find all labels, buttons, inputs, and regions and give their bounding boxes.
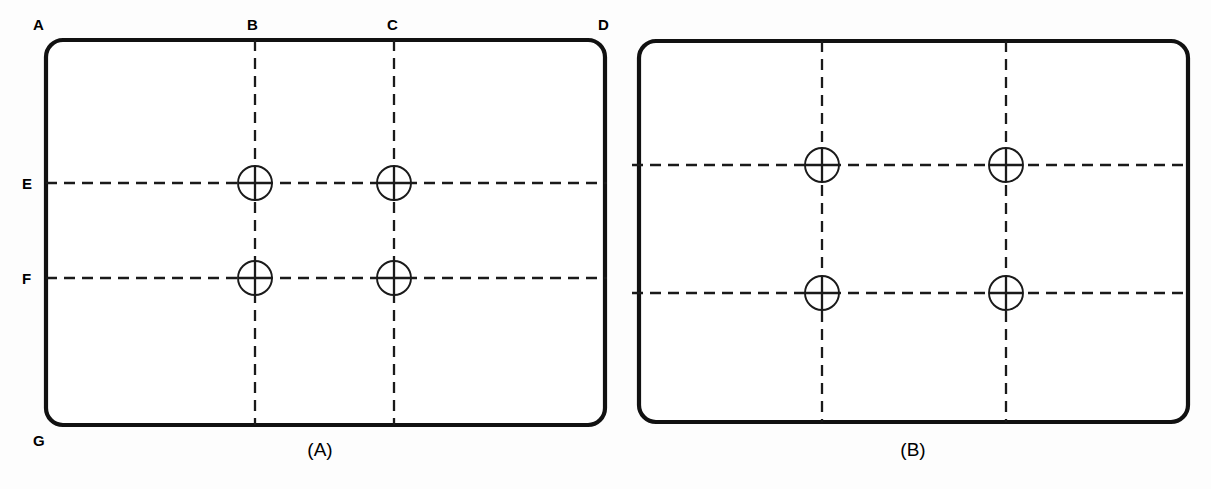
panel-a: A B C D E F G (A)	[22, 16, 609, 460]
panel-a-hole-ce	[377, 166, 411, 200]
panel-a-label-b: B	[247, 16, 258, 33]
panel-b: (B)	[632, 41, 1190, 460]
engineering-drawing-svg: A B C D E F G (A)	[0, 0, 1211, 489]
panel-a-label-a: A	[33, 16, 44, 33]
panel-a-hole-bf	[238, 261, 272, 295]
panel-a-label-g: G	[33, 432, 45, 449]
panel-a-outline	[46, 40, 605, 425]
panel-a-caption: (A)	[307, 439, 332, 460]
panel-b-outline	[639, 41, 1188, 422]
panel-a-label-e: E	[22, 175, 32, 192]
panel-b-hole-lower-right	[989, 276, 1023, 310]
panel-b-hole-upper-right	[989, 148, 1023, 182]
panel-b-hole-lower-left	[805, 276, 839, 310]
panel-a-label-d: D	[598, 16, 609, 33]
panel-a-hole-cf	[377, 261, 411, 295]
panel-a-label-f: F	[22, 270, 31, 287]
panel-b-hole-upper-left	[805, 148, 839, 182]
panel-a-label-c: C	[387, 16, 398, 33]
panel-b-caption: (B)	[900, 439, 925, 460]
panel-a-hole-be	[238, 166, 272, 200]
figure-root: A B C D E F G (A)	[0, 0, 1211, 489]
